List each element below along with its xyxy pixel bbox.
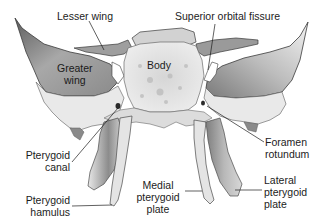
label-lesser-wing: Lesser wing — [57, 10, 113, 22]
label-greater-wing: Greater wing — [57, 62, 93, 86]
label-pterygoid-canal: Pterygoid canal — [20, 149, 70, 173]
lesser-wing-right — [196, 38, 258, 56]
lateral-pterygoid-plate-right — [206, 118, 242, 196]
label-superior-orbital-fissure: Superior orbital fissure — [175, 10, 280, 22]
left-base-notch — [70, 128, 84, 140]
foramen-rotundum-opening — [201, 101, 205, 106]
greater-wing-right — [206, 22, 308, 98]
label-pterygoid-hamulus: Pterygoid hamulus — [20, 194, 70, 218]
leader-pterygoid-hamulus — [72, 205, 112, 206]
label-medial-pterygoid-plate: Medial pterygoid plate — [131, 179, 185, 215]
label-foramen-rotundum: Foramen rotundum — [265, 136, 309, 160]
label-lateral-pterygoid-plate: Lateral pterygoid plate — [264, 174, 307, 210]
sphenoid-body — [124, 42, 204, 112]
label-body: Body — [147, 59, 171, 71]
